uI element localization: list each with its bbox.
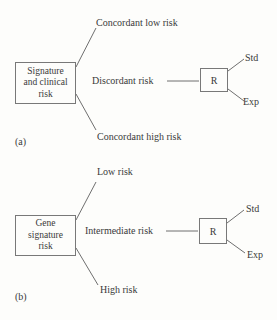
- gene-signature-risk-box: Gene signature risk: [15, 215, 76, 256]
- concordant-low-risk-label: Concordant low risk: [96, 17, 178, 28]
- panel-a-label: (a): [15, 136, 26, 147]
- high-risk-label: High risk: [100, 284, 138, 295]
- signature-clinical-risk-line1: Signature: [27, 66, 63, 78]
- randomization-box-a: R: [200, 68, 228, 92]
- gene-signature-risk-line1: Gene: [35, 218, 55, 230]
- randomization-box-a-label: R: [211, 75, 218, 86]
- low-risk-label: Low risk: [97, 166, 133, 177]
- a-branch-line-low: [76, 28, 96, 67]
- std-arm-label-a: Std: [245, 52, 258, 63]
- b-r-to-std-line: [227, 210, 244, 223]
- connector-lines: [0, 0, 277, 320]
- randomization-box-b: R: [199, 218, 227, 244]
- b-branch-line-low: [76, 182, 96, 220]
- a-r-to-exp-line: [228, 89, 244, 101]
- signature-clinical-risk-line2: and clinical: [23, 77, 67, 89]
- gene-signature-risk-line3: risk: [38, 241, 52, 253]
- a-branch-line-high: [76, 94, 96, 130]
- std-arm-label-b: Std: [246, 203, 259, 214]
- a-r-to-std-line: [228, 59, 244, 71]
- signature-clinical-risk-box: Signature and clinical risk: [15, 62, 76, 104]
- b-branch-line-high: [76, 248, 98, 285]
- b-r-to-exp-line: [227, 240, 245, 253]
- gene-signature-risk-line2: signature: [28, 230, 63, 242]
- randomization-box-b-label: R: [210, 226, 217, 237]
- exp-arm-label-b: Exp: [247, 249, 263, 260]
- exp-arm-label-a: Exp: [243, 96, 259, 107]
- two-panel-tree-diagram: Signature and clinical risk Concordant l…: [0, 0, 277, 320]
- discordant-risk-label: Discordant risk: [92, 75, 153, 86]
- intermediate-risk-label: Intermediate risk: [85, 225, 153, 236]
- signature-clinical-risk-line3: risk: [38, 89, 52, 101]
- panel-b-label: (b): [15, 291, 27, 302]
- concordant-high-risk-label: Concordant high risk: [97, 131, 181, 142]
